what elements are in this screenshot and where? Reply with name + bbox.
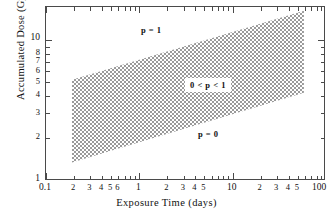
xtick-minor-90 (321, 176, 322, 180)
xtick-major-1 (139, 173, 140, 179)
xtick-minor-0.7 (125, 176, 126, 180)
xtick-minor-0.6 (118, 176, 119, 180)
y-axis-title: Accumulated Dose (Gy) (15, 0, 26, 126)
xtick-minor-40 (289, 176, 290, 180)
xtick-minor-9 (228, 176, 229, 180)
xtick-minor-4 (195, 176, 196, 180)
xtick-minor-7 (218, 176, 219, 180)
xtick-top-0.8 (130, 7, 131, 11)
xtick-top-4 (195, 7, 196, 11)
x-axis-title: Exposure Time (days) (0, 197, 333, 208)
xtick-top-0.2 (74, 7, 75, 11)
xtick-top-0.5 (111, 7, 112, 11)
annotation-p-range: 0 < p < 1 (185, 78, 231, 92)
xtick-minor-0.8 (130, 176, 131, 180)
xtick-top-90 (321, 7, 322, 11)
ytick-right-8 (321, 54, 325, 55)
xtick-top-40 (289, 7, 290, 11)
xtick-label-10: 10 (222, 182, 242, 192)
ytick-minor-6 (46, 71, 50, 72)
xtick-top-0.7 (125, 7, 126, 11)
ytick-label-1: 1 (22, 174, 40, 183)
xtick-minor-50 (298, 176, 299, 180)
xtick-label-0.6: 6 (107, 182, 127, 192)
xtick-top-70 (311, 7, 312, 11)
chart-figure: p = 1 0 < p < 1 p = 0 0.1 2 3 4 5 6 1 2 … (0, 0, 333, 217)
xtick-major-10 (233, 173, 234, 179)
ytick-right-2 (321, 138, 325, 139)
xtick-label-50: 5 (287, 182, 307, 192)
xtick-minor-0.3 (90, 176, 91, 180)
annotation-p-equals-one: p = 1 (141, 25, 162, 35)
xtick-minor-0.4 (102, 176, 103, 180)
plot-area: p = 1 0 < p < 1 p = 0 (45, 6, 325, 180)
xtick-label-100: 100 (306, 182, 332, 192)
ytick-minor-9 (46, 47, 50, 48)
ytick-right-7 (321, 62, 325, 63)
ytick-label-2: 2 (22, 132, 40, 141)
xtick-top-10 (233, 7, 234, 13)
ytick-right-6 (321, 71, 325, 72)
annotation-p-equals-zero: p = 0 (198, 129, 219, 139)
ytick-minor-8 (46, 54, 50, 55)
ytick-minor-2 (46, 138, 50, 139)
xtick-minor-20 (261, 176, 262, 180)
xtick-top-0.3 (90, 7, 91, 11)
xtick-minor-70 (311, 176, 312, 180)
ytick-right-3 (321, 113, 325, 114)
xtick-top-0.1 (46, 7, 47, 13)
xtick-minor-8 (223, 176, 224, 180)
xtick-label-0.1: 0.1 (30, 182, 60, 192)
ytick-minor-7 (46, 62, 50, 63)
xtick-top-6 (212, 7, 213, 11)
xtick-minor-30 (277, 176, 278, 180)
xtick-top-30 (277, 7, 278, 11)
ytick-minor-3 (46, 113, 50, 114)
xtick-top-0.6 (118, 7, 119, 11)
xtick-label-1: 1 (128, 182, 148, 192)
xtick-top-8 (223, 7, 224, 11)
ytick-right-9 (321, 47, 325, 48)
xtick-minor-0.2 (74, 176, 75, 180)
xtick-minor-5 (204, 176, 205, 180)
xtick-top-7 (218, 7, 219, 11)
xtick-top-3 (184, 7, 185, 11)
xtick-minor-3 (184, 176, 185, 180)
xtick-major-0.1 (46, 173, 47, 179)
xtick-top-50 (298, 7, 299, 11)
xtick-top-5 (204, 7, 205, 11)
xtick-top-0.4 (102, 7, 103, 11)
xtick-top-1 (139, 7, 140, 13)
xtick-label-5: 5 (193, 182, 213, 192)
xtick-top-2 (167, 7, 168, 11)
xtick-minor-0.9 (135, 176, 136, 180)
xtick-minor-2 (167, 176, 168, 180)
xtick-top-60 (305, 7, 306, 11)
xtick-top-9 (228, 7, 229, 11)
ytick-minor-5 (46, 82, 50, 83)
ytick-minor-4 (46, 96, 50, 97)
ytick-right-4 (321, 96, 325, 97)
xtick-top-0.9 (135, 7, 136, 11)
ytick-right-10 (318, 40, 324, 41)
ytick-major-10 (46, 40, 52, 41)
ytick-right-5 (321, 82, 325, 83)
xtick-minor-80 (317, 176, 318, 180)
xtick-minor-60 (305, 176, 306, 180)
shaded-band (46, 7, 325, 180)
xtick-minor-6 (212, 176, 213, 180)
xtick-top-20 (261, 7, 262, 11)
xtick-top-80 (317, 7, 318, 11)
xtick-minor-0.5 (111, 176, 112, 180)
